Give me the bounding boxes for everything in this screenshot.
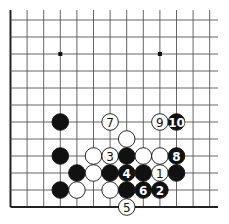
move-number: 7 [106,116,114,130]
white-stone: 9 [152,114,169,131]
black-stone [168,165,185,182]
white-stone [135,148,152,165]
white-stone [85,165,102,182]
move-number: 9 [156,116,164,130]
white-stone-disc [152,148,169,165]
black-stone-disc [168,165,185,182]
white-stone-disc [69,182,86,199]
black-stone-disc [52,148,69,165]
white-stone: 5 [118,199,135,216]
black-stone: 4 [118,165,135,182]
black-stone-disc [52,182,69,199]
white-stone [102,182,119,199]
white-stone [152,148,169,165]
move-number: 2 [156,184,164,198]
stones: 79103841625 [52,114,185,216]
black-stone [69,165,86,182]
black-stone-disc [69,165,86,182]
black-stone [135,165,152,182]
white-stone: 7 [102,114,119,131]
white-stone-disc [135,148,152,165]
move-number: 3 [106,150,114,164]
black-stone-disc [52,114,69,131]
white-stone: 1 [152,165,169,182]
black-stone: 8 [168,148,185,165]
black-stone-disc [102,165,119,182]
white-stone [85,148,102,165]
black-stone: 10 [168,114,185,131]
black-stone: 6 [135,182,152,199]
white-stone-disc [118,131,135,148]
black-stone-disc [118,182,135,199]
white-stone-disc [85,165,102,182]
white-stone: 3 [102,148,119,165]
white-stone-disc [102,182,119,199]
white-stone [118,131,135,148]
black-stone [52,182,69,199]
move-number: 5 [123,201,131,215]
black-stone [118,182,135,199]
move-number: 10 [168,116,185,130]
black-stone [52,148,69,165]
diagram-caption [8,216,32,224]
go-board: 79103841625 [0,0,229,224]
black-stone: 2 [152,182,169,199]
black-stone [118,148,135,165]
black-stone-disc [135,165,152,182]
black-stone-disc [118,148,135,165]
move-number: 6 [139,184,147,198]
move-number: 8 [172,150,180,164]
star-point [58,52,62,56]
move-number: 1 [156,167,164,181]
black-stone [102,165,119,182]
black-stone [52,114,69,131]
white-stone [69,182,86,199]
move-number: 4 [123,167,131,181]
white-stone-disc [85,148,102,165]
star-point [158,52,162,56]
